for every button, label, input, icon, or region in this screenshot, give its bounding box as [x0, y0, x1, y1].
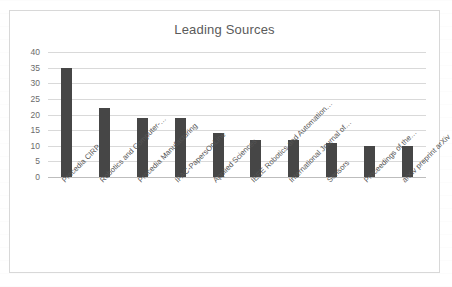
y-axis-tick-label: 25: [31, 94, 40, 104]
x-axis-tick-labels: Procedia CIRPRobotics and Computer-…Proc…: [48, 178, 426, 270]
y-axis-tick-label: 20: [31, 110, 40, 120]
chart-title: Leading Sources: [10, 22, 439, 37]
y-axis-tick-label: 0: [35, 172, 40, 182]
y-axis-tick-label: 15: [31, 125, 40, 135]
y-axis-tick-label: 5: [35, 156, 40, 166]
y-axis-tick-label: 10: [31, 141, 40, 151]
y-axis-tick-labels: 0510152025303540: [10, 52, 44, 177]
y-axis-tick-label: 35: [31, 63, 40, 73]
bar[interactable]: [61, 68, 72, 177]
y-axis-tick-label: 30: [31, 78, 40, 88]
y-axis-tick-label: 40: [31, 47, 40, 57]
chart-container: Leading Sources 0510152025303540 Procedi…: [9, 10, 440, 273]
